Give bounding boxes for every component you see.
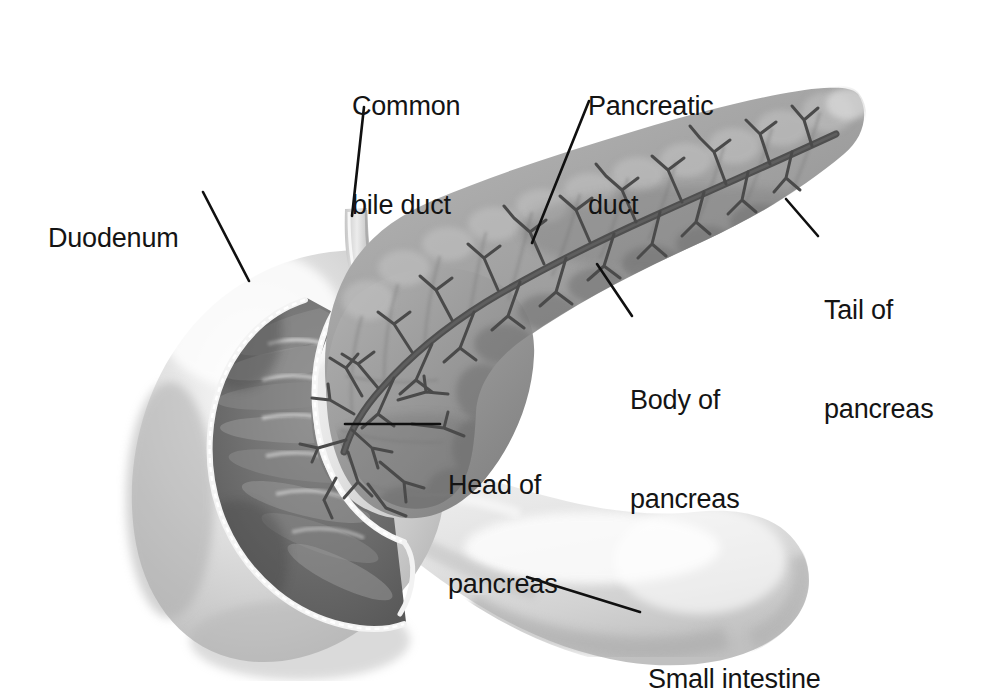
label-common-bile-duct-line1: Common	[352, 90, 460, 123]
label-tail-of-pancreas-line1: Tail of	[824, 294, 933, 327]
label-common-bile-duct-line2: bile duct	[352, 189, 460, 222]
label-duodenum-line1: Duodenum	[48, 222, 179, 255]
label-head-of-pancreas: Head of pancreas	[448, 403, 557, 667]
label-tail-of-pancreas: Tail of pancreas	[824, 228, 933, 492]
label-pancreatic-duct-line1: Pancreatic	[588, 90, 714, 123]
label-head-of-pancreas-line1: Head of	[448, 469, 557, 502]
label-body-of-pancreas: Body of pancreas	[630, 318, 739, 582]
label-pancreatic-duct: Pancreatic duct	[588, 24, 714, 288]
label-duodenum: Duodenum	[48, 156, 179, 321]
leader-tail-of-pancreas	[786, 199, 818, 236]
label-head-of-pancreas-line2: pancreas	[448, 568, 557, 601]
label-common-bile-duct: Common bile duct	[352, 24, 460, 288]
label-body-of-pancreas-line2: pancreas	[630, 483, 739, 516]
duodenum-left-shadow	[126, 382, 214, 618]
label-pancreatic-duct-line2: duct	[588, 189, 714, 222]
label-tail-of-pancreas-line2: pancreas	[824, 393, 933, 426]
label-small-intestine: Small intestine	[648, 597, 821, 692]
label-small-intestine-line1: Small intestine	[648, 663, 821, 692]
label-body-of-pancreas-line1: Body of	[630, 384, 739, 417]
